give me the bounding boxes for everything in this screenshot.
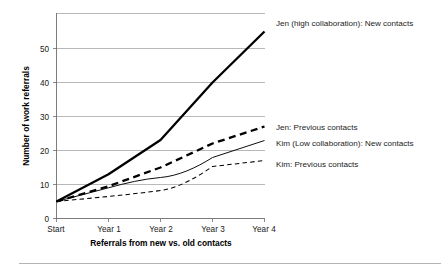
series-label-jen-new-contacts: Jen (high collaboration): New contacts [276,19,413,28]
series-label-kim-previous-contacts: Kim: Previous contacts [276,160,358,169]
chart-figure: 0 10 20 30 40 50 Start Year 1 Year 2 Yea… [0,0,448,275]
x-tick-label-start: Start [47,225,65,234]
y-axis-title: Number of work referrals [21,66,31,166]
y-tick-label-20: 20 [40,147,50,156]
x-axis-title: Referrals from new vs. old contacts [90,238,232,248]
y-tick-marks [53,49,57,219]
x-tick-label-year-1: Year 1 [97,225,121,234]
x-tick-label-year-4: Year 4 [252,225,276,234]
y-tick-label-50: 50 [40,45,50,54]
series-line-kim-new-contacts [57,141,265,202]
line-chart: 0 10 20 30 40 50 Start Year 1 Year 2 Yea… [0,0,448,275]
x-tick-marks [57,219,265,223]
series-labels: Jen (high collaboration): New contacts J… [276,19,414,169]
y-tick-labels: 0 10 20 30 40 50 [40,45,50,224]
x-tick-label-year-3: Year 3 [201,225,225,234]
series-label-jen-previous-contacts: Jen: Previous contacts [276,123,357,132]
gridlines [56,14,265,185]
series-label-kim-new-contacts: Kim (Low collaboration): New contacts [276,139,414,148]
y-tick-label-0: 0 [44,215,49,224]
y-tick-label-10: 10 [40,181,50,190]
x-tick-label-year-2: Year 2 [149,225,173,234]
y-tick-label-30: 30 [40,113,50,122]
series-line-jen-previous-contacts [57,127,265,202]
y-tick-label-40: 40 [40,79,50,88]
x-tick-labels: Start Year 1 Year 2 Year 3 Year 4 [47,225,276,234]
axes [56,13,265,219]
